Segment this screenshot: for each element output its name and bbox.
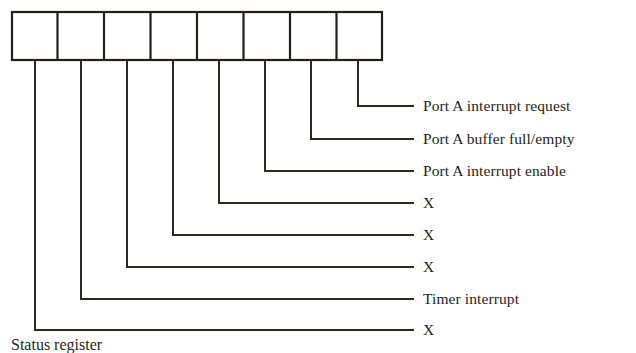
figure-canvas: XTimer interruptXXXPort A interrupt enab…	[0, 0, 636, 353]
bit-label-5: X	[423, 259, 434, 275]
bit-label-4: X	[423, 227, 434, 243]
leader-line-bit-7	[358, 61, 413, 106]
bit-label-6: Timer interrupt	[423, 291, 519, 307]
leader-lines	[35, 61, 413, 330]
bit-label-2: Port A interrupt enable	[423, 163, 566, 179]
leader-line-bit-1	[81, 61, 413, 299]
bit-label-3: X	[423, 195, 434, 211]
leader-line-bit-2	[127, 61, 413, 267]
bit-label-0: Port A interrupt request	[423, 98, 570, 114]
bit-label-1: Port A buffer full/empty	[423, 131, 575, 147]
leader-line-bit-4	[219, 61, 413, 203]
leader-line-bit-3	[173, 61, 413, 235]
status-register-box	[12, 11, 382, 61]
leader-line-bit-5	[265, 61, 413, 171]
leader-line-bit-6	[311, 61, 413, 139]
bit-label-7: X	[423, 322, 434, 338]
leader-line-bit-0	[35, 61, 413, 330]
figure-caption: Status register	[11, 337, 102, 353]
